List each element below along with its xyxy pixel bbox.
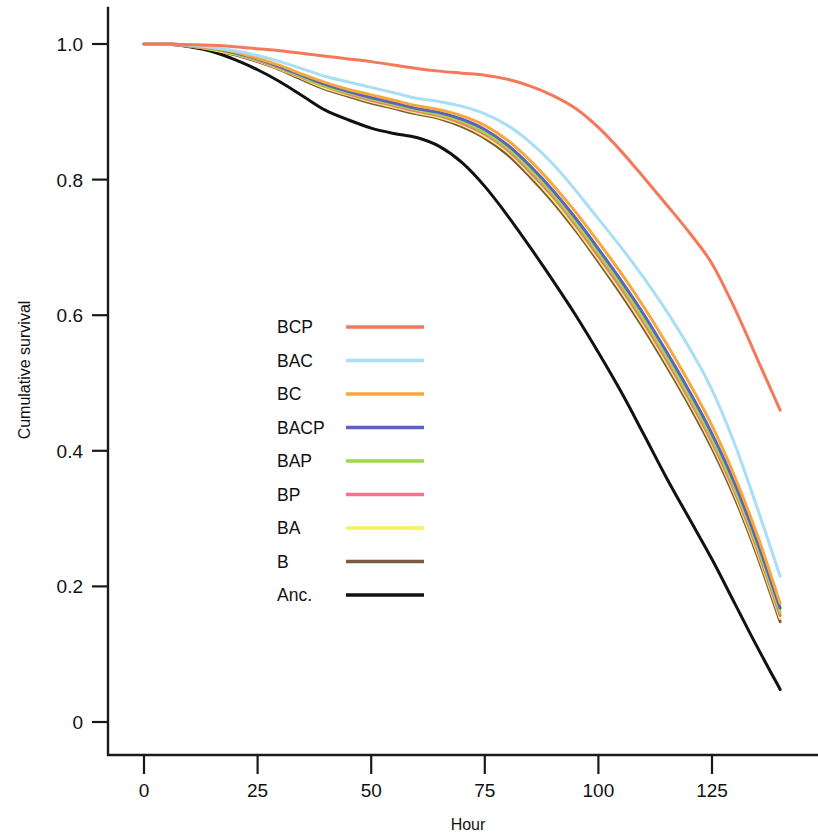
x-axis-title: Hour — [451, 816, 486, 833]
legend-item-label: BP — [277, 485, 300, 505]
legend-item-bac: BAC — [277, 351, 424, 371]
legend-item-bacp: BACP — [277, 418, 424, 438]
legend-item-label: BAC — [277, 351, 313, 371]
legend-item-label: B — [277, 552, 289, 572]
curve-anc — [144, 44, 780, 690]
x-tick-label: 125 — [696, 780, 728, 801]
curve-bcp — [144, 44, 780, 410]
y-axis-title: Cumulative survival — [16, 301, 33, 440]
x-tick-label: 50 — [361, 780, 382, 801]
y-tick-label: 0.8 — [57, 170, 83, 191]
curve-bacp — [144, 44, 780, 608]
y-tick-label: 0.4 — [57, 441, 84, 462]
legend-item-label: BAP — [277, 451, 312, 471]
curve-ba — [144, 44, 780, 618]
legend-item-bap: BAP — [277, 451, 424, 471]
y-tick-label: 0.2 — [57, 576, 83, 597]
legend-item-bc: BC — [277, 384, 424, 404]
curve-bp — [144, 44, 780, 616]
legend-item-b: B — [277, 552, 424, 572]
data-curves-group — [144, 44, 780, 690]
legend-item-label: Anc. — [277, 585, 312, 605]
survival-chart-figure: 00.20.40.60.81.0 0255075100125 Cumulativ… — [0, 0, 818, 836]
y-tick-label: 0 — [72, 712, 83, 733]
x-tick-label: 25 — [247, 780, 268, 801]
legend-item-label: BCP — [277, 317, 313, 337]
legend-item-bcp: BCP — [277, 317, 424, 337]
x-axis-tick-marks — [144, 755, 712, 774]
x-axis-tick-labels: 0255075100125 — [139, 780, 728, 801]
legend-item-label: BACP — [277, 418, 325, 438]
legend-item-label: BA — [277, 518, 301, 538]
y-axis-tick-labels: 00.20.40.60.81.0 — [57, 34, 84, 733]
legend-item-label: BC — [277, 384, 301, 404]
x-tick-label: 0 — [139, 780, 150, 801]
chart-legend: BCPBACBCBACPBAPBPBABAnc. — [277, 317, 424, 605]
legend-item-ba: BA — [277, 518, 424, 538]
curve-bap — [144, 44, 780, 612]
legend-item-bp: BP — [277, 485, 424, 505]
y-tick-label: 1.0 — [57, 34, 83, 55]
survival-chart-svg: 00.20.40.60.81.0 0255075100125 Cumulativ… — [0, 0, 818, 836]
y-axis-tick-marks — [92, 44, 108, 722]
y-tick-label: 0.6 — [57, 305, 83, 326]
x-tick-label: 75 — [474, 780, 495, 801]
legend-item-anc: Anc. — [277, 585, 424, 605]
x-tick-label: 100 — [583, 780, 615, 801]
curve-b — [144, 44, 780, 622]
